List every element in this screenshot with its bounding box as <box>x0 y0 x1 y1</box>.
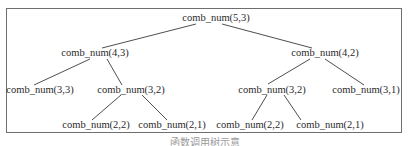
node-comb-num-4-2: comb_num(4,2) <box>291 47 358 59</box>
node-comb-num-2-2-right: comb_num(2,2) <box>216 119 283 131</box>
figure-caption: 函数调用树示意 <box>170 137 240 146</box>
node-comb-num-3-1: comb_num(3,1) <box>332 84 399 96</box>
diagram-frame <box>6 8 402 133</box>
node-comb-num-3-2-right: comb_num(3,2) <box>238 84 305 96</box>
node-comb-num-2-2-left: comb_num(2,2) <box>62 119 129 131</box>
node-comb-num-3-3: comb_num(3,3) <box>6 84 73 96</box>
node-comb-num-2-1-left: comb_num(2,1) <box>138 119 205 131</box>
node-comb-num-4-3: comb_num(4,3) <box>61 47 128 59</box>
node-comb-num-2-1-right: comb_num(2,1) <box>296 119 363 131</box>
node-comb-num-3-2-left: comb_num(3,2) <box>97 84 164 96</box>
node-comb-num-5-3: comb_num(5,3) <box>182 12 249 24</box>
